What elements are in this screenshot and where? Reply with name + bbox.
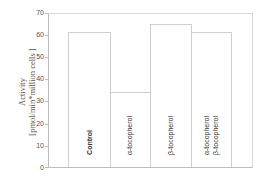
y-tick-0: 0 (26, 164, 44, 172)
bar-label-beta-tocopherol: β-tocopherol (167, 116, 175, 155)
bar-label-alpha-tocopherol: α-tocopherol (126, 116, 134, 155)
bar-label-alpha-beta-line1: α-tocopherol (203, 116, 211, 155)
y-tick-30: 30 (26, 97, 44, 105)
plot-area: Control α-tocopherol β-tocopherol α-toco… (48, 13, 253, 168)
y-tick-50: 50 (26, 53, 44, 61)
bar-label-control: Control (86, 130, 94, 155)
bar-label-alpha-beta-line2: β-tocopherol (212, 116, 220, 155)
y-tick-60: 60 (26, 31, 44, 39)
y-tick-40: 40 (26, 75, 44, 83)
y-tick-20: 20 (26, 120, 44, 128)
y-tick-10: 10 (26, 142, 44, 150)
y-tick-70: 70 (26, 9, 44, 17)
y-axis-label: Activity [pmol/min*million cells ] (17, 27, 37, 157)
y-axis-label-line-2: [pmol/min*million cells ] (27, 27, 37, 157)
y-axis-label-line-1: Activity (17, 27, 27, 157)
